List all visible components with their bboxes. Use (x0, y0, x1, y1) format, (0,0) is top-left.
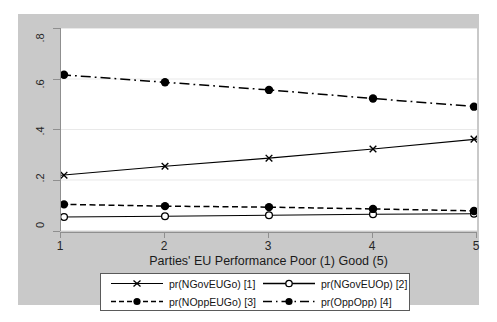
legend-key-series-1 (109, 274, 165, 293)
data-point-marker (470, 102, 477, 110)
data-point-marker (161, 202, 169, 210)
data-point-marker (61, 70, 68, 78)
figure-canvas: 0 .2 .4 .6 .8 (8, 6, 489, 313)
x-tick-label-5: 5 (461, 239, 491, 253)
legend-entry-1[interactable]: pr(NGovEUGo) [1] (109, 274, 255, 293)
plot-svg (61, 28, 477, 231)
y-tick-mark-6 (53, 79, 60, 80)
legend-entry-3[interactable]: pr(NOppEUGo) [3] (109, 292, 256, 311)
x-tick-mark-5 (476, 232, 477, 238)
x-tick-label-2: 2 (149, 239, 179, 253)
y-tick-label-0: 0 (34, 210, 46, 240)
data-point-marker (266, 212, 273, 219)
x-tick-label-4: 4 (357, 239, 387, 253)
filled-circle-icon (285, 298, 292, 305)
plot-area (60, 28, 477, 231)
y-tick-label-4: .4 (34, 116, 46, 146)
data-point-marker (369, 205, 377, 213)
series-4 (61, 70, 477, 110)
series-1 (61, 136, 477, 179)
data-point-marker (162, 213, 169, 220)
data-point-marker (265, 203, 273, 211)
y-tick-mark-4 (53, 129, 60, 130)
legend-key-series-4 (261, 292, 317, 311)
x-tick-label-1: 1 (45, 239, 75, 253)
legend-entry-2[interactable]: pr(NGovEUOp) [2] (261, 274, 407, 293)
y-tick-label-2: .2 (34, 163, 46, 193)
data-point-marker (369, 94, 377, 102)
legend-label-series-1: pr(NGovEUGo) [1] (169, 278, 255, 290)
data-point-marker (265, 86, 273, 94)
x-axis-title: Parties' EU Performance Poor (1) Good (5… (60, 254, 477, 268)
series-2 (61, 210, 477, 220)
x-tick-label-3: 3 (253, 239, 283, 253)
y-tick-mark-0 (53, 231, 60, 232)
legend-label-series-4: pr(OppOpp) [4] (321, 296, 392, 308)
open-circle-icon (286, 280, 292, 286)
series-layer (61, 70, 477, 220)
legend-key-series-2 (261, 274, 317, 293)
gridlines (61, 29, 477, 231)
series-line (61, 139, 477, 175)
chart-legend: pr(NGovEUGo) [1] pr(NGovEUOp) [2] (100, 273, 410, 311)
data-point-marker (61, 200, 68, 208)
y-tick-mark-2 (53, 180, 60, 181)
legend-row-1: pr(NGovEUGo) [1] pr(NGovEUOp) [2] (101, 274, 409, 293)
x-tick-mark-4 (372, 232, 373, 238)
legend-label-series-2: pr(NGovEUOp) [2] (321, 278, 407, 290)
legend-row-2: pr(NOppEUGo) [3] pr(OppOpp) [4] (101, 292, 409, 311)
y-tick-label-6: .6 (34, 69, 46, 99)
filled-circle-icon (133, 298, 140, 305)
y-tick-mark-8 (53, 28, 60, 29)
chart-screenshot: 0 .2 .4 .6 .8 (0, 0, 497, 322)
data-point-marker (161, 78, 169, 86)
x-tick-mark-1 (60, 232, 61, 238)
legend-label-series-3: pr(NOppEUGo) [3] (169, 296, 256, 308)
x-tick-mark-3 (268, 232, 269, 238)
y-tick-label-8: .8 (34, 23, 46, 53)
legend-entry-4[interactable]: pr(OppOpp) [4] (261, 292, 392, 311)
legend-key-series-3 (109, 292, 165, 311)
x-tick-mark-2 (164, 232, 165, 238)
data-point-marker (61, 214, 67, 221)
